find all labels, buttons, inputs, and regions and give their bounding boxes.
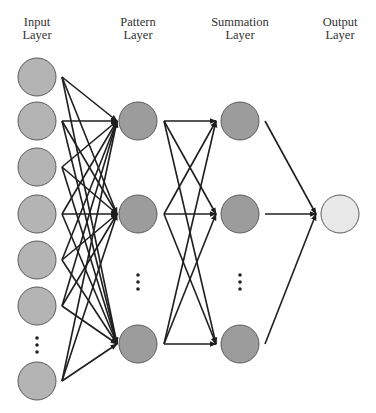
summation-node bbox=[221, 102, 259, 140]
pnn-architecture-diagram: Input Layer Pattern Layer Summation Laye… bbox=[0, 0, 376, 413]
network-graph bbox=[0, 0, 376, 413]
input-node bbox=[18, 362, 56, 400]
edge-summation-to-output bbox=[265, 121, 316, 214]
output-node bbox=[321, 195, 359, 233]
summation-ellipsis-icon bbox=[238, 273, 242, 291]
pattern-node bbox=[119, 325, 157, 363]
input-node bbox=[18, 148, 56, 186]
edge-input-to-pattern bbox=[62, 214, 117, 306]
edge-input-to-pattern bbox=[62, 344, 117, 381]
input-node bbox=[18, 195, 56, 233]
input-ellipsis-icon bbox=[35, 336, 39, 354]
edges-group bbox=[62, 77, 316, 381]
summation-node bbox=[221, 195, 259, 233]
edge-input-to-pattern bbox=[62, 77, 117, 344]
input-node bbox=[18, 102, 56, 140]
input-node bbox=[18, 241, 56, 279]
pattern-node bbox=[119, 102, 157, 140]
summation-node bbox=[221, 325, 259, 363]
pattern-ellipsis-icon bbox=[136, 273, 140, 291]
input-node bbox=[18, 287, 56, 325]
pattern-node bbox=[119, 195, 157, 233]
edge-summation-to-output bbox=[265, 214, 316, 344]
input-node bbox=[18, 58, 56, 96]
